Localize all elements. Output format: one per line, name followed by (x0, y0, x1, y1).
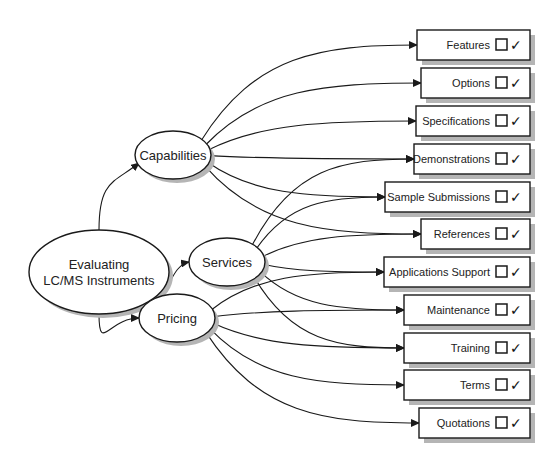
connector-root-to-capabilities (99, 163, 139, 230)
item-box-terms[interactable]: Terms✓ (404, 370, 535, 405)
node-label: Evaluating (69, 257, 130, 272)
item-box-references[interactable]: References✓ (421, 219, 535, 254)
connector-pricing-to-maintenance (213, 310, 404, 317)
checkmark-icon: ✓ (510, 377, 522, 393)
connector-pricing-to-training (212, 323, 404, 348)
item-label: Features (447, 39, 491, 51)
item-box-features[interactable]: Features✓ (417, 30, 535, 65)
connector-services-to-sample-submissions (256, 197, 385, 249)
connector-capabilities-to-sample-submissions (207, 162, 385, 197)
connector-capabilities-to-options (206, 83, 422, 145)
item-label: Training (451, 342, 490, 354)
category-node-services[interactable]: Services (189, 238, 269, 290)
connector-services-to-training (254, 277, 404, 348)
item-label: References (434, 228, 491, 240)
item-label: Options (452, 77, 490, 89)
category-node-capabilities[interactable]: Capabilities (135, 131, 215, 183)
item-box-quotations[interactable]: Quotations✓ (419, 408, 535, 443)
item-box-layer: Features✓Options✓Specifications✓Demonstr… (384, 30, 535, 443)
node-label: Services (202, 255, 252, 270)
connector-layer (99, 45, 421, 423)
category-node-pricing[interactable]: Pricing (139, 294, 219, 346)
checkmark-icon: ✓ (510, 75, 522, 91)
connector-services-to-references (262, 234, 421, 257)
item-label: Terms (460, 379, 490, 391)
checkmark-icon: ✓ (510, 37, 522, 53)
checkmark-icon: ✓ (510, 189, 522, 205)
checkmark-icon: ✓ (510, 302, 522, 318)
item-label: Sample Submissions (387, 191, 490, 203)
connector-capabilities-to-demonstrations (209, 156, 414, 159)
item-box-applications-support[interactable]: Applications Support✓ (384, 257, 535, 292)
connector-capabilities-to-features (201, 45, 417, 141)
item-box-training[interactable]: Training✓ (404, 333, 535, 368)
node-label: Capabilities (139, 148, 207, 163)
item-box-options[interactable]: Options✓ (421, 68, 535, 103)
item-box-sample-submissions[interactable]: Sample Submissions✓ (385, 182, 535, 217)
mind-map-diagram: EvaluatingLC/MS InstrumentsCapabilitiesS… (0, 0, 560, 472)
item-label: Applications Support (389, 266, 490, 278)
item-box-maintenance[interactable]: Maintenance✓ (404, 295, 535, 330)
item-box-specifications[interactable]: Specifications✓ (416, 106, 535, 141)
item-label: Quotations (437, 417, 491, 429)
checkmark-icon: ✓ (510, 415, 522, 431)
connector-services-to-maintenance (260, 271, 404, 310)
node-layer: EvaluatingLC/MS InstrumentsCapabilitiesS… (29, 131, 269, 346)
connector-pricing-to-terms (209, 328, 404, 385)
item-label: Maintenance (427, 304, 490, 316)
checkmark-icon: ✓ (510, 113, 522, 129)
connector-services-to-applications-support (263, 264, 384, 272)
item-label: Specifications (422, 115, 490, 127)
checkmark-icon: ✓ (510, 151, 522, 167)
item-label: Demonstrations (413, 153, 491, 165)
item-box-demonstrations[interactable]: Demonstrations✓ (413, 144, 535, 179)
checkmark-icon: ✓ (510, 340, 522, 356)
node-label: Pricing (157, 311, 197, 326)
checkmark-icon: ✓ (510, 264, 522, 280)
connector-capabilities-to-specifications (208, 121, 416, 150)
node-label: LC/MS Instruments (43, 273, 155, 288)
checkmark-icon: ✓ (510, 226, 522, 242)
